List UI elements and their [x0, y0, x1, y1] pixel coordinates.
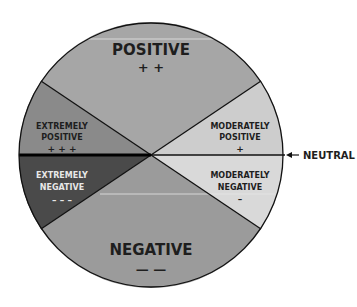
arrow-left-icon: [286, 152, 292, 158]
symbol-positive: + +: [138, 60, 164, 75]
symbol-moderately-positive: +: [236, 144, 244, 154]
sentiment-wheel-diagram: NEUTRAL POSITIVE + + MODERATELY POSITIVE…: [0, 0, 357, 307]
symbol-extremely-negative: – – –: [52, 195, 72, 205]
symbol-negative: — —: [136, 262, 167, 277]
label-extremely-positive-2: POSITIVE: [41, 133, 83, 142]
label-extremely-positive-1: EXTREMELY: [36, 122, 88, 131]
label-moderately-positive-1: MODERATELY: [210, 122, 269, 131]
label-negative: NEGATIVE: [109, 241, 192, 259]
label-extremely-negative-2: NEGATIVE: [40, 183, 84, 192]
label-positive: POSITIVE: [112, 41, 190, 59]
symbol-moderately-negative: –: [238, 194, 243, 204]
label-moderately-negative-2: NEGATIVE: [218, 183, 262, 192]
label-moderately-positive-2: POSITIVE: [219, 133, 261, 142]
label-extremely-negative-1: EXTREMELY: [36, 171, 88, 180]
label-moderately-negative-1: MODERATELY: [210, 171, 269, 180]
symbol-extremely-positive: + + +: [48, 144, 77, 154]
neutral-label: NEUTRAL: [303, 150, 356, 161]
